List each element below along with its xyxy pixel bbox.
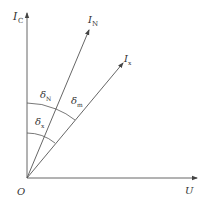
delta-n-label: δ N: [40, 89, 51, 102]
ix-vector: [27, 63, 123, 178]
ic-axis-label: I C: [12, 10, 23, 25]
delta-n-arc: [27, 103, 56, 109]
svg-text:N: N: [92, 20, 98, 28]
in-vector-label: I N: [87, 14, 98, 28]
svg-text:U: U: [185, 185, 194, 196]
u-axis-label: U: [185, 185, 194, 196]
phasor-diagram: I C U O I N I x δ N δ m δ x: [0, 0, 210, 204]
svg-text:x: x: [41, 122, 45, 129]
svg-text:O: O: [17, 186, 25, 197]
origin-label: O: [17, 186, 25, 197]
delta-m-label: δ m: [71, 95, 83, 108]
delta-m-arc: [56, 109, 75, 120]
svg-text:x: x: [128, 59, 132, 66]
svg-text:m: m: [77, 101, 83, 108]
svg-text:C: C: [18, 17, 23, 25]
svg-text:N: N: [46, 95, 51, 102]
delta-x-label: δ x: [35, 116, 45, 129]
delta-x-arc: [27, 133, 55, 143]
ix-vector-label: I x: [123, 53, 132, 66]
